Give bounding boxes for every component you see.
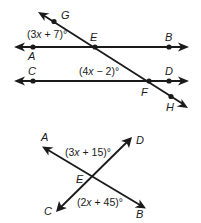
arrowhead-up-left-icon: [42, 147, 54, 156]
point-h: [168, 94, 173, 99]
line-ab: [14, 43, 189, 52]
label-c: C: [44, 205, 52, 217]
figure-intersecting-lines: A D E C B (3x + 15)° (2x + 45)°: [40, 131, 146, 220]
line-cd: [14, 77, 189, 86]
label-h: H: [166, 101, 174, 113]
angle-expression-ceb: (2x + 45)°: [77, 196, 123, 208]
point-b: [166, 44, 171, 49]
label-a: A: [27, 50, 35, 62]
label-f: F: [141, 86, 149, 98]
point-d: [166, 78, 171, 83]
angle-expression-aed: (3x + 15)°: [65, 146, 111, 158]
label-e: E: [76, 173, 84, 185]
point-g: [51, 19, 56, 24]
geometry-figures: G E B A C D F H (3x + 7)° (4x − 2)° A D: [0, 0, 201, 223]
point-c: [30, 78, 35, 83]
label-c: C: [28, 65, 36, 77]
angle-expression-aeg: (3x + 7)°: [27, 28, 67, 40]
arrowhead-up-left-icon: [38, 12, 50, 21]
label-d: D: [136, 134, 144, 146]
figure-parallel-lines: G E B A C D F H (3x + 7)° (4x − 2)°: [14, 9, 189, 113]
label-a: A: [40, 131, 48, 143]
point-a: [30, 44, 35, 49]
label-d: D: [165, 65, 173, 77]
transversal-gh: [38, 12, 188, 108]
label-b: B: [165, 31, 172, 43]
label-b: B: [136, 208, 143, 220]
label-g: G: [61, 9, 70, 21]
angle-expression-cfe: (4x − 2)°: [79, 65, 119, 77]
label-e: E: [90, 31, 98, 43]
